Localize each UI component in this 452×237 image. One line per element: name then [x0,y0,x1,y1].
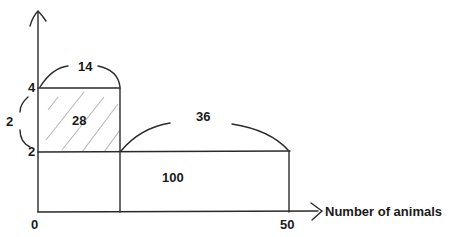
area-label-28: 28 [72,113,86,128]
level-2-line [38,151,290,152]
y-axis [30,11,46,212]
brace-14-right [98,66,120,87]
brace-36-right [232,124,288,150]
y-tick-4: 4 [28,80,36,95]
brace-2-top [20,97,28,112]
width-label-14: 14 [78,59,93,74]
width-label-36: 36 [196,109,210,124]
hatched-rectangle [38,88,120,212]
area-diagram: 14 28 2 36 100 4 2 0 50 Number of animal… [0,0,452,237]
brace-14-left [40,66,68,87]
x-axis-label: Number of animals [325,204,442,219]
y-tick-2: 2 [28,144,35,159]
area-label-100: 100 [162,170,184,185]
x-tick-50: 50 [280,217,294,232]
height-label-2: 2 [6,114,13,129]
x-tick-0: 0 [31,217,38,232]
brace-36-left [121,123,170,151]
